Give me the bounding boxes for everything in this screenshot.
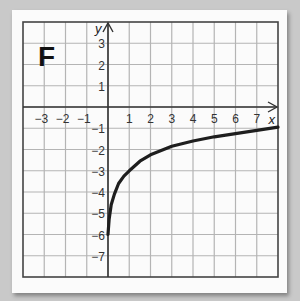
x-tick-label: 3 [168, 112, 175, 126]
tick-labels: −3−2−11234567321−1−2−3−4−5−6−7 [34, 37, 260, 264]
x-tick-label: 7 [253, 112, 260, 126]
x-tick-label: −1 [77, 112, 91, 126]
y-tick-label: −2 [91, 144, 105, 158]
coordinate-plane: −3−2−11234567321−1−2−3−4−5−6−7 F x y [0, 0, 300, 301]
y-tick-label: −3 [91, 165, 105, 179]
y-tick-label: 1 [98, 80, 105, 94]
x-axis-label: x [267, 112, 275, 127]
graph-title: F [38, 41, 55, 72]
y-tick-label: −1 [91, 122, 105, 136]
x-tick-label: 2 [147, 112, 154, 126]
y-tick-label: 2 [98, 59, 105, 73]
y-axis-label: y [94, 21, 103, 36]
x-tick-label: −2 [56, 112, 70, 126]
x-tick-label: 6 [232, 112, 239, 126]
x-tick-label: −3 [34, 112, 48, 126]
x-tick-label: 1 [126, 112, 133, 126]
y-tick-label: −7 [91, 250, 105, 264]
y-tick-label: −4 [91, 186, 105, 200]
grid-lines [23, 22, 278, 277]
y-tick-label: −5 [91, 207, 105, 221]
x-tick-label: 5 [211, 112, 218, 126]
y-tick-label: 3 [98, 37, 105, 51]
x-tick-label: 4 [190, 112, 197, 126]
y-tick-label: −6 [91, 229, 105, 243]
